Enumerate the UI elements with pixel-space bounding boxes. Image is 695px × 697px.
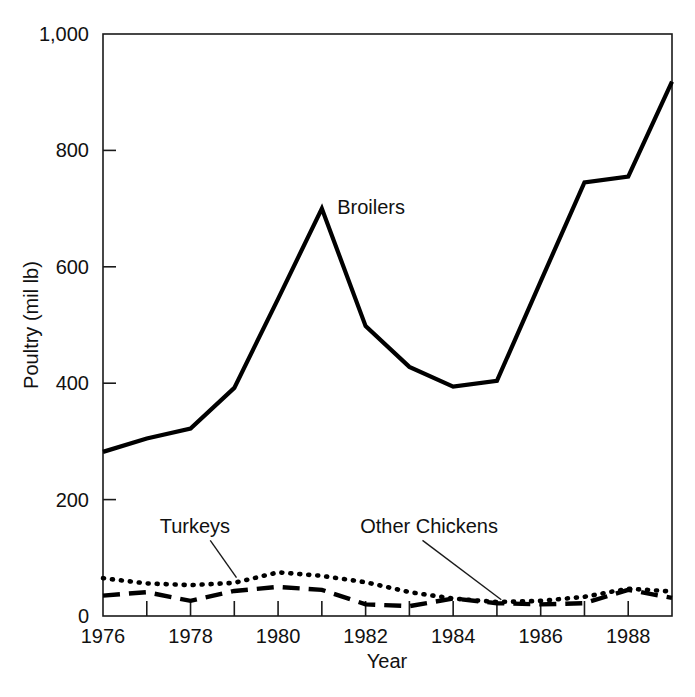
x-tick-label: 1976 bbox=[81, 625, 126, 647]
y-tick-label: 400 bbox=[56, 372, 89, 394]
y-tick-label: 200 bbox=[56, 489, 89, 511]
x-tick-label: 1982 bbox=[343, 625, 388, 647]
poultry-line-chart: 02004006008001,000 197619781980198219841… bbox=[0, 0, 695, 697]
series-label-turkeys: Turkeys bbox=[160, 515, 230, 537]
x-tick-label: 1986 bbox=[518, 625, 563, 647]
y-axis-title: Poultry (mil lb) bbox=[20, 261, 42, 389]
chart-background bbox=[0, 0, 695, 697]
series-label-other-chickens: Other Chickens bbox=[360, 515, 498, 537]
x-tick-label: 1988 bbox=[606, 625, 651, 647]
x-axis-title: Year bbox=[367, 650, 408, 672]
series-label-broilers: Broilers bbox=[337, 196, 405, 218]
y-tick-label: 600 bbox=[56, 256, 89, 278]
y-tick-label: 800 bbox=[56, 139, 89, 161]
y-tick-label: 1,000 bbox=[39, 23, 89, 45]
x-tick-label: 1984 bbox=[431, 625, 476, 647]
chart-canvas: 02004006008001,000 197619781980198219841… bbox=[0, 0, 695, 697]
y-tick-label: 0 bbox=[78, 605, 89, 627]
x-tick-label: 1980 bbox=[256, 625, 301, 647]
x-tick-label: 1978 bbox=[168, 625, 213, 647]
